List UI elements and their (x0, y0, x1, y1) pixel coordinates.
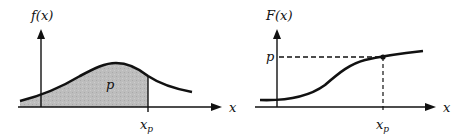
xp-tick-label: xp (376, 117, 389, 134)
y-axis-arrow-icon (37, 29, 45, 39)
shaded-area (20, 63, 148, 107)
x-axis-label: x (443, 100, 451, 115)
cdf-curve (260, 51, 423, 100)
y-axis-label: F(x) (265, 8, 293, 23)
figure: f(x) x p xp p F(x) x xp (0, 0, 470, 135)
pdf-panel: f(x) x p xp (18, 8, 237, 134)
y-axis-arrow-icon (273, 29, 281, 39)
intersection-point (380, 54, 385, 59)
x-axis-arrow-icon (425, 103, 436, 111)
x-axis-arrow-icon (211, 103, 222, 111)
x-axis-label: x (229, 100, 237, 115)
xp-tick-label: xp (140, 117, 153, 134)
y-axis-label: f(x) (30, 8, 53, 23)
area-label: p (106, 77, 115, 92)
p-level-label: p (266, 49, 275, 64)
cdf-panel: p F(x) x xp (255, 8, 451, 134)
